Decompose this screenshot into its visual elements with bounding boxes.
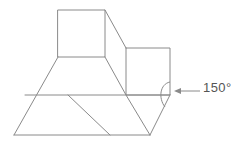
figure-canvas xyxy=(0,0,235,150)
base-diagonal-far-right xyxy=(150,95,170,135)
upper-slant-edge xyxy=(105,10,126,48)
right-box-face xyxy=(126,48,170,95)
inner-slant-edge xyxy=(105,57,126,95)
top-box-face xyxy=(58,10,105,57)
left-slant-edge xyxy=(14,57,58,135)
base-diagonal-left xyxy=(68,95,110,135)
arrow-head-icon xyxy=(174,88,181,94)
angle-measure-label: 150° xyxy=(203,81,232,94)
annotation-leader-group xyxy=(174,88,200,94)
base-diagonal-right xyxy=(126,95,150,135)
geometry-figure: 150° xyxy=(0,0,235,150)
solid-outline-group xyxy=(14,10,170,135)
